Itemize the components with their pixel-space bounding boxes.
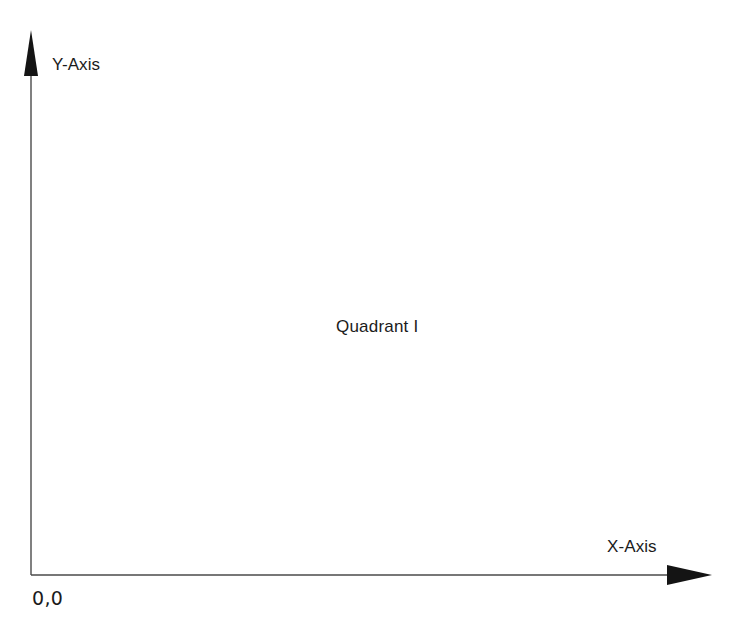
origin-label: 0,0: [32, 589, 63, 608]
x-axis-label: X-Axis: [607, 538, 657, 555]
diagram-canvas: Y-Axis X-Axis Quadrant I 0,0: [0, 0, 735, 620]
y-axis-arrowhead-icon: [24, 30, 38, 76]
y-axis-label: Y-Axis: [52, 56, 100, 73]
axes-graphic: [0, 0, 735, 620]
quadrant-label: Quadrant I: [336, 318, 418, 335]
x-axis-arrowhead-icon: [667, 565, 712, 585]
